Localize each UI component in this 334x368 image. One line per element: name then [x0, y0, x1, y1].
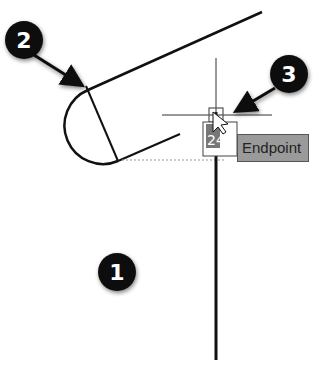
svg-text:2: 2: [16, 28, 31, 53]
drawing-canvas[interactable]: 24 2 3 1: [0, 0, 334, 368]
svg-text:1: 1: [109, 260, 124, 285]
snap-marker-icon: 24: [203, 112, 237, 156]
endpoint-snap-tooltip: Endpoint: [237, 134, 309, 162]
callout-3: 3: [238, 55, 308, 110]
callout-2: 2: [5, 21, 80, 84]
callout-1: 1: [98, 176, 136, 291]
svg-text:24: 24: [207, 132, 225, 148]
svg-text:3: 3: [281, 62, 296, 87]
